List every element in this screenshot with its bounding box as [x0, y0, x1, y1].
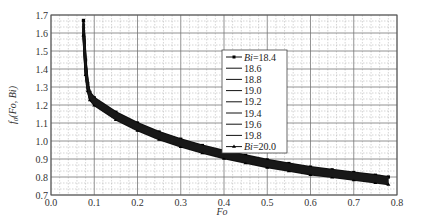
y-tick-label: 1.1 — [36, 118, 49, 129]
y-tick-label: 0.7 — [36, 190, 49, 201]
x-tick-label: 0.3 — [175, 197, 188, 208]
legend-label: 19.6 — [244, 119, 262, 130]
legend-label: 18.8 — [244, 74, 262, 85]
legend-label: 19.4 — [244, 108, 262, 119]
legend: Bi=18.418.618.819.019.219.419.619.8Bi=20… — [222, 50, 287, 153]
y-tick-label: 1.6 — [36, 28, 49, 39]
y-tick-label: 1.3 — [36, 82, 49, 93]
x-tick-label: 0.8 — [391, 197, 404, 208]
x-tick-label: 0.1 — [88, 197, 101, 208]
legend-label: 19.8 — [244, 130, 262, 141]
square-marker-icon — [233, 56, 236, 59]
x-tick-label: 0.5 — [261, 197, 274, 208]
chart-canvas: 0.00.10.20.30.40.50.60.70.8 0.70.80.91.0… — [0, 0, 421, 224]
y-axis-ticks: 0.70.80.91.01.11.21.31.41.51.61.7 — [36, 10, 49, 201]
legend-label: 19.2 — [244, 96, 262, 107]
x-tick-label: 0.2 — [131, 197, 144, 208]
y-tick-label: 0.9 — [36, 154, 49, 165]
y-tick-label: 1.0 — [36, 136, 49, 147]
y-axis-label: f0(Fo, Bi) — [7, 85, 20, 124]
x-axis-label: Fo — [215, 206, 227, 217]
y-tick-label: 1.7 — [36, 10, 49, 21]
y-tick-label: 1.4 — [36, 64, 49, 75]
y-tick-label: 0.8 — [36, 172, 49, 183]
legend-label: 19.0 — [244, 85, 262, 96]
x-tick-label: 0.7 — [348, 197, 361, 208]
legend-label: 18.6 — [244, 63, 262, 74]
y-tick-label: 1.5 — [36, 46, 49, 57]
legend-label: Bi=18.4 — [244, 52, 276, 63]
legend-label: Bi=20.0 — [244, 141, 276, 152]
svg-text:f0(Fo, Bi): f0(Fo, Bi) — [7, 85, 20, 124]
y-tick-label: 1.2 — [36, 100, 49, 111]
x-tick-label: 0.6 — [304, 197, 317, 208]
